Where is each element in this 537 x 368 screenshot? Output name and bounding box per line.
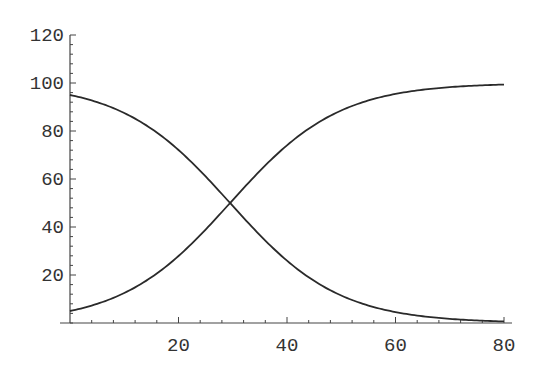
y-tick-label: 120 (30, 25, 64, 47)
y-tick-label: 80 (41, 121, 64, 143)
x-axis: 20406080 (60, 317, 515, 357)
x-tick-label: 20 (167, 335, 190, 357)
plot-area (70, 85, 504, 322)
x-tick-label: 40 (276, 335, 299, 357)
y-tick-label: 40 (41, 217, 64, 239)
y-axis: 20406080100120 (30, 25, 76, 323)
x-tick-label: 60 (384, 335, 407, 357)
y-tick-label: 60 (41, 169, 64, 191)
chart-canvas: 20406080100120 20406080 (0, 0, 537, 368)
x-tick-label: 80 (493, 335, 516, 357)
y-tick-label: 20 (41, 265, 64, 287)
y-tick-label: 100 (30, 73, 64, 95)
